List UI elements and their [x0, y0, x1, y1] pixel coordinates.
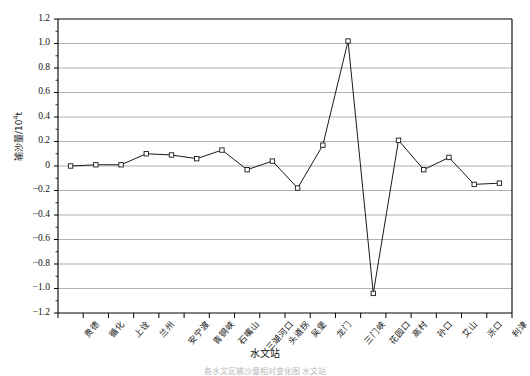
- y-axis-tick-label: −0.8: [20, 259, 50, 269]
- y-axis-tick-label: −0.2: [20, 185, 50, 195]
- y-axis-tick-label: 0.8: [20, 63, 50, 73]
- y-axis-tick-label: −0.6: [20, 234, 50, 244]
- y-axis-tick-label: 0.6: [20, 87, 50, 97]
- data-point-marker: [497, 181, 501, 185]
- data-point-marker: [195, 156, 199, 160]
- data-point-marker: [295, 186, 299, 190]
- data-point-marker: [245, 167, 249, 171]
- y-axis-tick-label: −1.0: [20, 283, 50, 293]
- data-series-line: [71, 41, 500, 293]
- y-axis-tick-label: 0.4: [20, 112, 50, 122]
- data-point-marker: [447, 155, 451, 159]
- data-point-marker: [472, 182, 476, 186]
- y-axis-tick-label: 1.0: [20, 38, 50, 48]
- data-point-marker: [220, 148, 224, 152]
- data-point-marker: [94, 163, 98, 167]
- y-axis-tick-label: 0: [20, 161, 50, 171]
- y-axis-tick-label: −1.2: [20, 308, 50, 318]
- data-point-marker: [422, 167, 426, 171]
- data-point-marker: [396, 138, 400, 142]
- data-point-marker: [321, 143, 325, 147]
- y-axis-tick-label: 1.2: [20, 14, 50, 24]
- data-point-marker: [371, 291, 375, 295]
- data-point-marker: [119, 163, 123, 167]
- y-axis-tick-label: 0.2: [20, 136, 50, 146]
- figure-caption: 各水文区输沙量相对变化图 水文站: [0, 365, 530, 376]
- data-point-marker: [68, 164, 72, 168]
- data-point-marker: [144, 152, 148, 156]
- data-point-marker: [346, 39, 350, 43]
- y-axis-tick-label: −0.4: [20, 210, 50, 220]
- data-point-marker: [270, 159, 274, 163]
- data-point-marker: [169, 153, 173, 157]
